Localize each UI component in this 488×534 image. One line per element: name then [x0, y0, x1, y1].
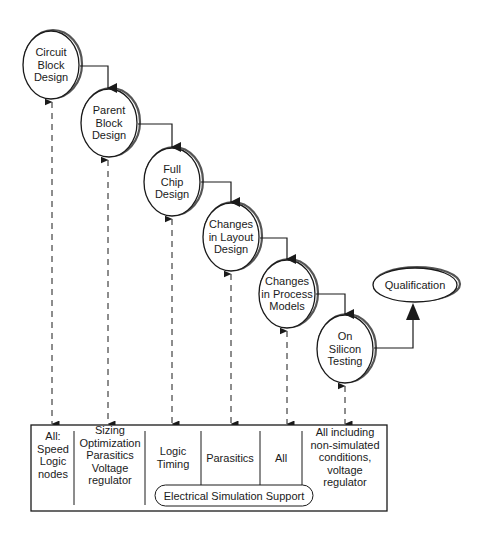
label-line: On [328, 330, 363, 343]
electrical-simulation-support-label: Electrical Simulation Support [164, 490, 305, 502]
label-line: Block [34, 59, 68, 72]
label-line: in Process [261, 288, 312, 301]
label-circuit-block-design: Circuit Block Design [34, 46, 68, 84]
label-changes-in-layout-design: Changes in Layout Design [209, 218, 254, 256]
flow-arrow-2 [138, 124, 172, 147]
label-line: Changes [261, 275, 312, 288]
cell-line: voltage [310, 463, 379, 476]
label-line: Qualification [385, 279, 446, 292]
cell-line: Parasitics [79, 449, 140, 462]
flow-arrow-5 [316, 294, 345, 314]
cell-line: regulator [79, 474, 140, 487]
cell-line: Speed [37, 443, 69, 456]
label-line: Full [155, 163, 189, 176]
cell-line: regulator [310, 476, 379, 489]
label-line: Silicon [328, 343, 363, 356]
label-line: Chip [155, 176, 189, 189]
cell-line: Optimization [79, 436, 140, 449]
nodes [23, 31, 457, 383]
large-arrowhead-icon [406, 303, 420, 320]
qualification-connector [374, 303, 420, 348]
flow-arrow-3 [201, 182, 231, 202]
label-line: Design [92, 129, 126, 142]
label-line: Design [209, 243, 254, 256]
cell-all: All [275, 452, 287, 465]
flow-arrow-1 [80, 66, 108, 88]
label-line: Models [261, 300, 312, 313]
label-full-chip-design: Full Chip Design [155, 163, 189, 201]
cell-line: Parasitics [206, 452, 254, 465]
label-line: Changes [209, 218, 254, 231]
cell-line: Voltage [79, 461, 140, 474]
label-line: Design [155, 188, 189, 201]
label-line: in Layout [209, 231, 254, 244]
cell-line: All [275, 452, 287, 465]
cell-all-including: All including non-simulated conditions, … [310, 426, 379, 489]
label-line: Block [92, 117, 126, 130]
cell-line: All: [37, 430, 69, 443]
label-changes-in-process-models: Changes in Process Models [261, 275, 312, 313]
cell-logic-timing: Logic Timing [157, 445, 190, 470]
cell-line: nodes [37, 468, 69, 481]
cell-line: All including [310, 426, 379, 439]
cell-line: Timing [157, 457, 190, 470]
cell-line: Logic [37, 455, 69, 468]
cell-sizing-optimization: Sizing Optimization Parasitics Voltage r… [79, 424, 140, 487]
cell-parasitics: Parasitics [206, 452, 254, 465]
cell-line: non-simulated [310, 438, 379, 451]
flow-arrow-4 [260, 238, 287, 259]
label-on-silicon-testing: On Silicon Testing [328, 330, 363, 368]
label-qualification: Qualification [385, 279, 446, 292]
label-line: Parent [92, 104, 126, 117]
label-line: Testing [328, 355, 363, 368]
cell-line: conditions, [310, 451, 379, 464]
cell-all-speed-logic-nodes: All: Speed Logic nodes [37, 430, 69, 480]
label-parent-block-design: Parent Block Design [92, 104, 126, 142]
label-line: Design [34, 71, 68, 84]
cell-line: Logic [157, 445, 190, 458]
cell-line: Sizing [79, 424, 140, 437]
label-line: Circuit [34, 46, 68, 59]
